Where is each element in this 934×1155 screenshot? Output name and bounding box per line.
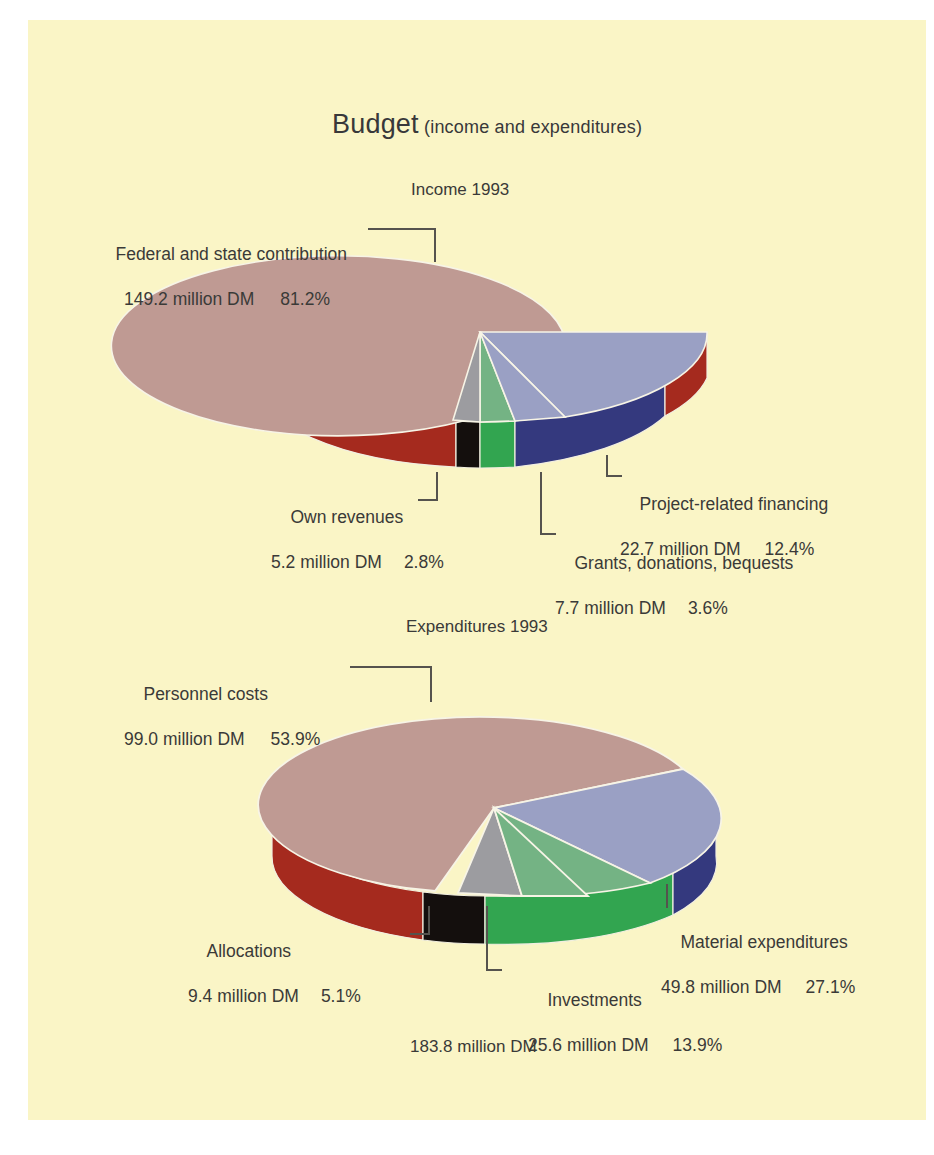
- exp-callout-investments-amount: 25.6 million DM: [528, 1035, 649, 1055]
- income-callout-grants-name: Grants, donations, bequests: [574, 553, 793, 573]
- exp-callout-personnel-percent: 53.9%: [271, 729, 321, 749]
- income-callout-own-revenues-name: Own revenues: [290, 507, 403, 527]
- income-callout-grants: Grants, donations, bequests 7.7 million …: [555, 529, 793, 666]
- income-callout-own-revenues-percent: 2.8%: [404, 552, 444, 572]
- leader-own-v: [436, 472, 438, 500]
- leader-own-h: [418, 499, 438, 501]
- exp-callout-investments: Investments 25.6 million DM13.9%: [528, 966, 722, 1103]
- expenditures-chart-title: Expenditures 1993: [406, 617, 548, 638]
- total-amount-label: 183.8 million DM: [410, 1037, 537, 1058]
- income-callout-federal: Federal and state contribution 149.2 mil…: [96, 220, 347, 357]
- exp-callout-personnel: Personnel costs 99.0 million DM53.9%: [124, 660, 320, 797]
- income-callout-federal-amount: 149.2 million DM: [124, 289, 254, 309]
- exp-callout-allocations-percent: 5.1%: [321, 986, 361, 1006]
- leader-grants-h: [540, 533, 556, 535]
- leader-federal-v: [434, 228, 436, 262]
- exp-callout-investments-percent: 13.9%: [673, 1035, 723, 1055]
- leader-alloc-v: [428, 906, 430, 934]
- exp-callout-material-percent: 27.1%: [806, 977, 856, 997]
- page-title-main: Budget: [332, 109, 419, 139]
- income-slice-side-grants: [480, 421, 515, 468]
- income-callout-project-name: Project-related financing: [639, 494, 828, 514]
- exp-callout-allocations-name: Allocations: [206, 941, 291, 961]
- leader-grants-v: [540, 472, 542, 534]
- income-callout-own-revenues-amount: 5.2 million DM: [271, 552, 382, 572]
- exp-slice-side-allocations: [423, 892, 485, 944]
- exp-callout-allocations-amount: 9.4 million DM: [188, 986, 299, 1006]
- infographic-page: Budget (income and expenditures) Income …: [28, 20, 926, 1120]
- exp-callout-investments-name: Investments: [547, 990, 641, 1010]
- income-callout-federal-name: Federal and state contribution: [115, 244, 347, 264]
- page-title-subtitle: (income and expenditures): [419, 117, 642, 137]
- income-callout-grants-percent: 3.6%: [688, 598, 728, 618]
- exp-callout-personnel-amount: 99.0 million DM: [124, 729, 245, 749]
- income-callout-federal-percent: 81.2%: [280, 289, 330, 309]
- leader-invest-h: [486, 969, 502, 971]
- page-title: Budget (income and expenditures): [332, 108, 642, 141]
- leader-invest-v: [486, 906, 488, 970]
- income-callout-grants-amount: 7.7 million DM: [555, 598, 666, 618]
- leader-personnel-v: [430, 666, 432, 702]
- exp-callout-allocations: Allocations 9.4 million DM5.1%: [188, 917, 361, 1054]
- income-slice-side-own: [456, 421, 480, 468]
- leader-personnel-h: [350, 666, 432, 668]
- leader-federal-h: [368, 228, 436, 230]
- income-callout-own-revenues: Own revenues 5.2 million DM2.8%: [271, 483, 444, 620]
- leader-alloc-h: [410, 933, 430, 935]
- leader-project-v: [606, 455, 608, 476]
- exp-callout-personnel-name: Personnel costs: [143, 684, 268, 704]
- leader-project-h: [606, 475, 622, 477]
- exp-callout-material-name: Material expenditures: [680, 932, 847, 952]
- leader-material-v: [666, 884, 668, 908]
